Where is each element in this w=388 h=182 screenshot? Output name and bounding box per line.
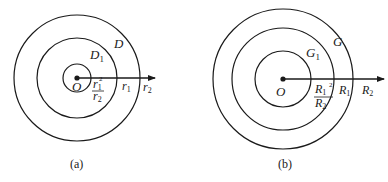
middle-radius-label-b: R1 [338, 83, 350, 98]
outer-region-label-b: G [333, 34, 343, 49]
center-label-b: O [276, 84, 286, 99]
caption-a: (a) [70, 157, 83, 171]
center-point-b [280, 76, 285, 81]
caption-b: (b) [278, 157, 292, 171]
diagram-a: O D D1 r1 2 r2 r1 r2 (a) [14, 15, 155, 171]
diagram-b: O G G1 R1 2 R2 R1 R2 (b) [213, 9, 384, 171]
svg-text:2: 2 [99, 75, 103, 83]
middle-radius-label-a: r1 [122, 79, 131, 94]
outer-radius-label-a: r2 [143, 80, 152, 95]
svg-text:R1: R1 [314, 82, 326, 97]
outer-region-label-a: D [113, 36, 124, 51]
svg-text:R2: R2 [314, 96, 326, 111]
inner-radius-fraction-a: r1 2 r2 [92, 75, 104, 104]
center-label-a: O [72, 79, 82, 94]
inner-region-label-a: D1 [89, 47, 104, 64]
figure-canvas: O D D1 r1 2 r2 r1 r2 (a) [0, 0, 388, 182]
inner-region-label-b: G1 [306, 45, 320, 62]
inner-radius-fraction-b: R1 2 R2 [314, 81, 333, 111]
svg-text:2: 2 [329, 81, 333, 89]
outer-radius-label-b: R2 [361, 83, 373, 98]
